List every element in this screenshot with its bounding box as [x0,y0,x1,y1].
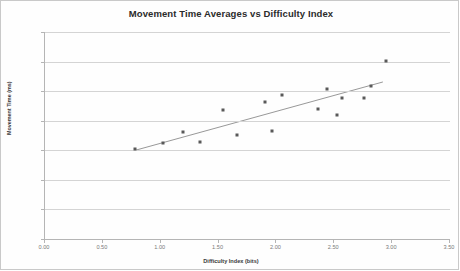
data-point [263,101,266,104]
data-point [222,108,225,111]
gridline [45,180,450,181]
y-axis-title: Movement Time (ms) [6,81,12,135]
data-point [385,59,388,62]
gridline [45,91,450,92]
gridline [45,150,450,151]
data-point [335,113,338,116]
x-tick-mark [218,240,219,243]
chart-title: Movement Time Averages vs Difficulty Ind… [1,8,460,19]
x-tick-label: 3.50 [444,244,455,250]
gridline [45,62,450,63]
x-tick-mark [449,240,450,243]
x-tick-mark [44,240,45,243]
data-point [281,94,284,97]
trendline [45,32,450,239]
x-tick-label: 2.00 [270,244,281,250]
data-point [134,148,137,151]
data-point [326,88,329,91]
x-tick-mark [391,240,392,243]
plot-area [44,32,450,240]
x-tick-label: 3.00 [386,244,397,250]
gridline [45,32,450,33]
data-point [199,141,202,144]
x-tick-label: 1.50 [212,244,223,250]
data-point [363,97,366,100]
data-point [236,133,239,136]
gridline [45,209,450,210]
x-tick-label: 2.50 [328,244,339,250]
x-tick-label: 0.50 [96,244,107,250]
x-tick-mark [333,240,334,243]
x-tick-mark [275,240,276,243]
data-point [162,142,165,145]
x-tick-mark [160,240,161,243]
chart-frame: Movement Time Averages vs Difficulty Ind… [0,0,459,270]
data-point [341,96,344,99]
x-tick-label: 0.00 [39,244,50,250]
x-axis-title: Difficulty Index (bits) [1,258,460,264]
data-point [270,129,273,132]
x-tick-mark [102,240,103,243]
x-tick-label: 1.00 [154,244,165,250]
data-point [317,108,320,111]
gridline [45,121,450,122]
data-point [181,131,184,134]
data-point [370,85,373,88]
